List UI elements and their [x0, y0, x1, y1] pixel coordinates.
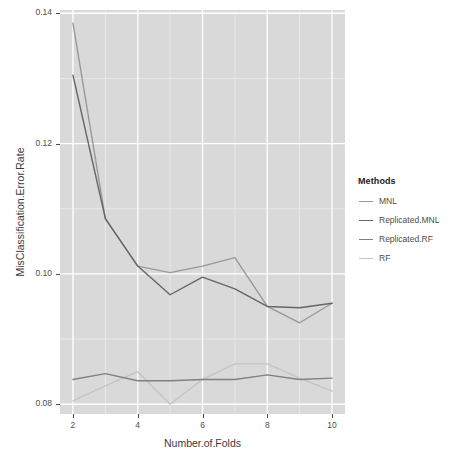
legend-item-replicated-mnl[interactable]: Replicated.MNL: [358, 212, 453, 228]
legend-item-label: RF: [379, 253, 390, 263]
legend-item-label: MNL: [379, 196, 397, 206]
legend-item-mnl[interactable]: MNL: [358, 193, 453, 209]
legend-key-swatch-icon: [358, 251, 374, 266]
x-tick-label: 8: [252, 421, 282, 430]
legend-title: Methods: [358, 176, 453, 186]
x-tick-mark: [138, 414, 139, 418]
legend-item-label: Replicated.RF: [379, 234, 433, 244]
y-tick-mark: [56, 13, 60, 14]
legend-item-list: MNLReplicated.MNLReplicated.RFRF: [358, 193, 453, 266]
legend-item-rf[interactable]: RF: [358, 250, 453, 266]
legend-key-swatch-icon: [358, 194, 374, 209]
y-tick-mark: [56, 144, 60, 145]
legend-key-swatch-icon: [358, 213, 374, 228]
plot-panel: [60, 10, 345, 414]
plot-svg: [60, 10, 345, 414]
x-tick-mark: [332, 414, 333, 418]
y-tick-mark: [56, 274, 60, 275]
x-tick-label: 2: [58, 421, 88, 430]
x-tick-mark: [73, 414, 74, 418]
x-tick-label: 10: [317, 421, 347, 430]
legend-item-replicated-rf[interactable]: Replicated.RF: [358, 231, 453, 247]
chart-root: 0.080.100.120.14 246810 Number.of.Folds …: [0, 0, 453, 471]
legend: Methods MNLReplicated.MNLReplicated.RFRF: [358, 176, 453, 269]
legend-item-label: Replicated.MNL: [379, 215, 439, 225]
y-tick-mark: [56, 404, 60, 405]
x-tick-label: 6: [188, 421, 218, 430]
y-axis-title: MisClassification.Error.Rate: [14, 10, 28, 414]
x-tick-mark: [203, 414, 204, 418]
x-tick-label: 4: [123, 421, 153, 430]
x-axis-title: Number.of.Folds: [60, 437, 345, 449]
x-tick-mark: [267, 414, 268, 418]
legend-key-swatch-icon: [358, 232, 374, 247]
